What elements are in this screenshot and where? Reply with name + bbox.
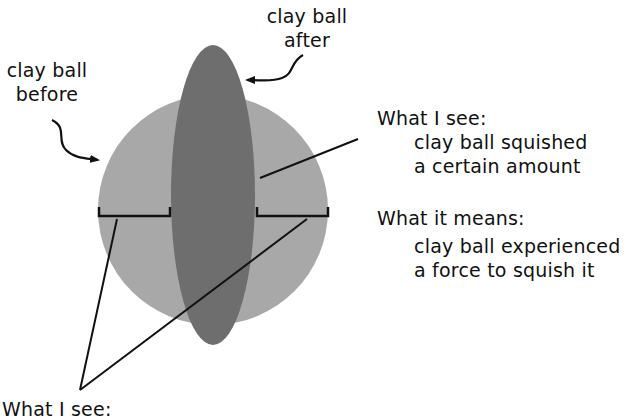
heading-what-i-see: What I see:	[2, 397, 111, 420]
pointer-line-left-bracket	[80, 219, 117, 390]
label-text: clay ball	[252, 4, 362, 28]
heading-what-it-means: What it means:	[377, 206, 621, 230]
label-text: after	[252, 28, 362, 52]
arrow-after	[247, 55, 303, 81]
label-clay-ball-after: clay ball after	[252, 4, 362, 52]
label-text: clay ball	[2, 58, 92, 82]
label-clay-ball-before: clay ball before	[2, 58, 92, 106]
what-it-means-right: What it means: clay ball experienced a f…	[377, 206, 621, 282]
clay-ball-after-shape	[171, 45, 255, 345]
label-text: before	[2, 82, 92, 106]
heading-what-i-see: What I see:	[377, 106, 588, 130]
what-i-see-bottom: What I see:	[2, 397, 111, 420]
description-line: clay ball squished	[377, 130, 588, 154]
description-line: clay ball experienced	[377, 234, 621, 258]
description-line: a force to squish it	[377, 258, 621, 282]
description-line: a certain amount	[377, 154, 588, 178]
arrow-before	[52, 120, 98, 160]
what-i-see-right: What I see: clay ball squished a certain…	[377, 106, 588, 178]
